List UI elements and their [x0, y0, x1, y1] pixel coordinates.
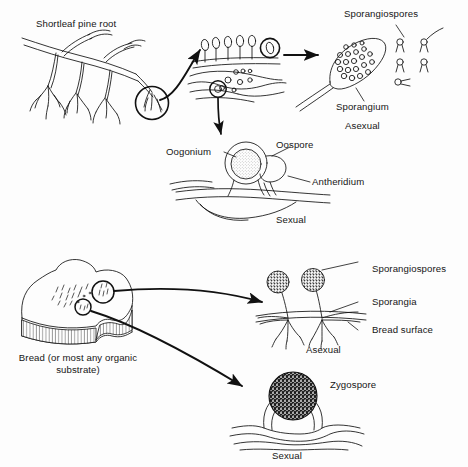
label-sporangia: Sporangia [372, 296, 417, 308]
diagram-artwork [0, 0, 468, 467]
arrow-section-to-oogonium [218, 98, 221, 134]
label-oospore: Oospore [276, 139, 314, 151]
label-asexual-top: Asexual [345, 120, 380, 132]
pine-root-drawing [22, 30, 169, 124]
label-antheridium: Antheridium [312, 176, 364, 188]
label-sporangiospores-top: Sporangiospores [344, 8, 418, 20]
label-bread-substrate: Bread (or most any organic substrate) [8, 352, 148, 377]
arrow-bread-to-asexual [114, 289, 262, 302]
label-zygospore: Zygospore [330, 379, 376, 391]
diagram-canvas: Shortleaf pine root Sporangiospores Spor… [0, 0, 468, 467]
bread-drawing [22, 259, 133, 344]
label-sporangium: Sporangium [336, 101, 389, 113]
label-sporangiospores-bottom: Sporangiospores [372, 263, 446, 275]
label-bread-surface: Bread surface [372, 324, 433, 336]
root-surface-section [188, 35, 286, 102]
label-shortleaf-pine-root: Shortleaf pine root [36, 18, 116, 30]
label-oogonium: Oogonium [166, 146, 211, 158]
label-sexual-top: Sexual [276, 214, 306, 226]
label-sexual-bottom: Sexual [272, 450, 302, 462]
sporangia-detail [256, 262, 366, 349]
label-asexual-bottom: Asexual [306, 344, 341, 356]
free-sporangiospores [395, 25, 443, 86]
